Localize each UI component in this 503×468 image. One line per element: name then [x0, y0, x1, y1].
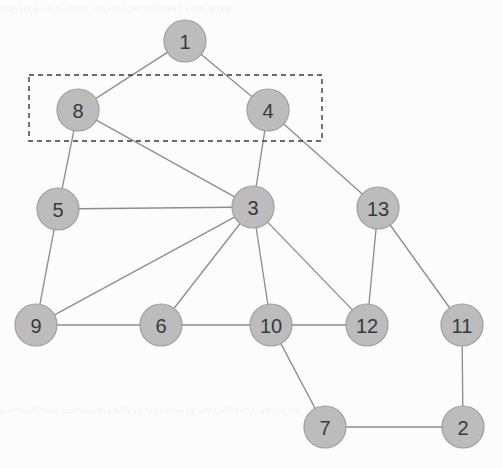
- graph-edge[interactable]: [283, 123, 363, 194]
- graph-edge[interactable]: [280, 343, 315, 410]
- graph-edge[interactable]: [200, 54, 252, 97]
- graph-node-5[interactable]: 5: [37, 188, 79, 230]
- graph-node-4[interactable]: 4: [247, 89, 289, 131]
- graph-node-11[interactable]: 11: [441, 304, 483, 346]
- node-label: 13: [367, 198, 389, 220]
- node-label: 5: [52, 199, 63, 221]
- graph-figure: nagybet kft mm ibse a sett attoh wa nedk…: [0, 0, 503, 468]
- node-label: 8: [72, 100, 83, 122]
- node-label: 9: [30, 315, 41, 337]
- nodes-layer: 18453139610121172: [15, 20, 484, 448]
- graph-node-2[interactable]: 2: [442, 406, 484, 448]
- graph-edge[interactable]: [173, 223, 240, 309]
- graph-canvas: 18453139610121172: [0, 0, 503, 468]
- graph-node-12[interactable]: 12: [346, 304, 388, 346]
- graph-edge[interactable]: [267, 221, 353, 310]
- graph-edge[interactable]: [369, 228, 376, 305]
- node-label: 7: [319, 417, 330, 439]
- graph-edge[interactable]: [54, 217, 236, 316]
- graph-node-8[interactable]: 8: [57, 89, 99, 131]
- graph-edge[interactable]: [78, 207, 233, 209]
- graph-node-9[interactable]: 9: [15, 304, 57, 346]
- graph-edge[interactable]: [256, 130, 265, 187]
- node-label: 4: [262, 100, 273, 122]
- graph-edge[interactable]: [390, 224, 451, 309]
- node-label: 12: [356, 315, 378, 337]
- graph-node-13[interactable]: 13: [357, 187, 399, 229]
- node-label: 6: [155, 315, 166, 337]
- graph-edge[interactable]: [62, 130, 74, 190]
- graph-edge[interactable]: [95, 120, 235, 198]
- node-label: 3: [247, 197, 258, 219]
- graph-node-7[interactable]: 7: [304, 406, 346, 448]
- graph-node-3[interactable]: 3: [232, 186, 274, 228]
- graph-node-10[interactable]: 10: [250, 304, 292, 346]
- graph-node-1[interactable]: 1: [164, 20, 206, 62]
- graph-edge[interactable]: [256, 227, 268, 305]
- graph-edge[interactable]: [40, 229, 55, 306]
- node-label: 11: [452, 315, 473, 337]
- node-label: 10: [260, 315, 282, 337]
- node-label: 2: [457, 417, 468, 439]
- graph-edge[interactable]: [462, 345, 463, 407]
- graph-node-6[interactable]: 6: [140, 304, 182, 346]
- node-label: 1: [179, 31, 190, 53]
